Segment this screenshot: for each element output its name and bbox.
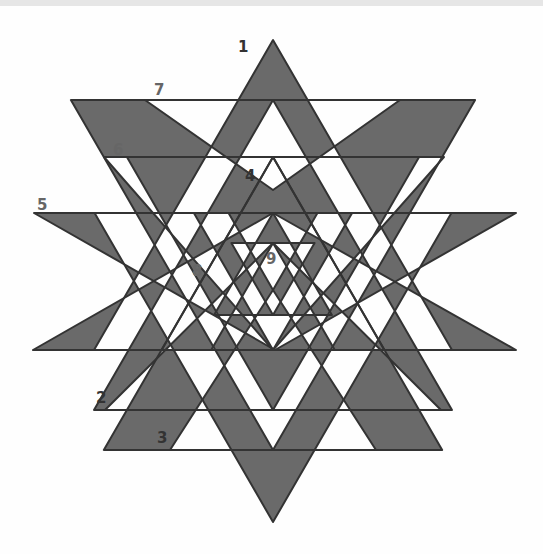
label-1: 1 — [238, 38, 248, 56]
label-5: 5 — [37, 196, 47, 214]
label-4: 4 — [245, 167, 255, 185]
yantra-diagram: 1 2 3 4 5 6 7 8 9 — [0, 0, 543, 554]
label-9: 9 — [266, 250, 276, 268]
label-3: 3 — [157, 429, 167, 447]
label-8: 8 — [192, 262, 202, 280]
label-6: 6 — [113, 141, 123, 159]
label-7: 7 — [154, 81, 164, 99]
label-2: 2 — [96, 389, 106, 407]
